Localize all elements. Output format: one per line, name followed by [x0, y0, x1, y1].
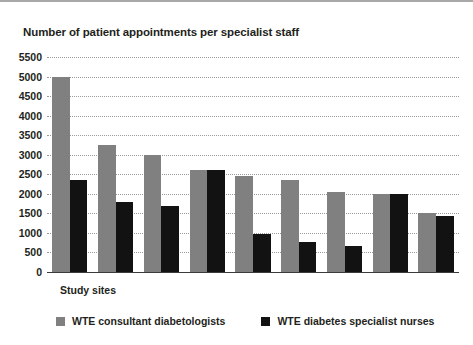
bar: [144, 155, 162, 272]
bar: [235, 176, 253, 272]
bar: [52, 77, 70, 272]
bar-group: [322, 57, 368, 272]
bar-group: [367, 57, 413, 272]
y-axis-tick-label: 500: [0, 246, 42, 258]
y-axis-tick-label: 1000: [0, 227, 42, 239]
bar: [345, 246, 363, 272]
bar-group: [93, 57, 139, 272]
bar: [436, 216, 454, 272]
chart-figure: Number of patient appointments per speci…: [0, 0, 473, 345]
legend-swatch-icon: [261, 317, 270, 326]
y-axis-tick-label: 2000: [0, 188, 42, 200]
y-axis-tick-label: 1500: [0, 207, 42, 219]
bar: [390, 194, 408, 272]
bar: [116, 202, 134, 272]
y-axis-tick-label: 2500: [0, 168, 42, 180]
bar: [70, 180, 88, 272]
bar-group: [47, 57, 93, 272]
bar-group: [230, 57, 276, 272]
y-axis-tick-label: 5000: [0, 71, 42, 83]
y-axis-tick-label: 4000: [0, 110, 42, 122]
legend-label: WTE consultant diabetologists: [72, 315, 225, 327]
legend-label: WTE diabetes specialist nurses: [277, 315, 434, 327]
bar: [98, 145, 116, 272]
bar: [418, 213, 436, 272]
y-axis-tick-label: 3000: [0, 149, 42, 161]
bar: [281, 180, 299, 272]
y-axis-tick-label: 4500: [0, 90, 42, 102]
legend-item: WTE consultant diabetologists: [56, 315, 225, 327]
y-axis-tick-labels: 0500100015002000250030003500400045005000…: [0, 57, 42, 272]
bar: [161, 206, 179, 272]
bar-group: [184, 57, 230, 272]
x-axis-label: Study sites: [60, 284, 116, 296]
legend: WTE consultant diabetologistsWTE diabete…: [56, 315, 434, 327]
bar: [299, 242, 317, 272]
bar: [207, 170, 225, 272]
bar: [190, 170, 208, 272]
bar-group: [276, 57, 322, 272]
bars-layer: [47, 57, 459, 272]
y-axis-tick-label: 5500: [0, 51, 42, 63]
bar-group: [413, 57, 459, 272]
bar-group: [139, 57, 185, 272]
page-title: Number of patient appointments per speci…: [23, 26, 299, 38]
y-axis-tick-label: 0: [0, 266, 42, 278]
gridline: [47, 272, 459, 273]
legend-swatch-icon: [56, 317, 65, 326]
legend-item: WTE diabetes specialist nurses: [261, 315, 434, 327]
bar: [327, 192, 345, 272]
bar: [373, 194, 391, 272]
bar: [253, 234, 271, 272]
y-axis-tick-label: 3500: [0, 129, 42, 141]
